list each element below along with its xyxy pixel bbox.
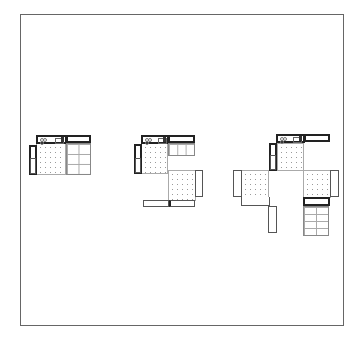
appliance-icon: [163, 137, 166, 142]
bedroom-left: [241, 170, 269, 198]
storage-grid-right: [303, 206, 329, 236]
stove-icon: [145, 138, 151, 143]
stove-icon: [280, 137, 286, 142]
bath-unit: [30, 158, 36, 174]
tab-left: [268, 206, 277, 233]
storage-grid: [66, 143, 91, 175]
storage-grid: [168, 143, 195, 156]
bath-unit: [135, 158, 141, 173]
bedroom-right: [303, 170, 331, 198]
living-room: [277, 143, 304, 171]
storage-counter: [168, 135, 195, 143]
closet-left: [233, 170, 242, 197]
bedroom-closet: [195, 170, 203, 197]
stove-icon: [40, 138, 46, 143]
bottom-counter-right: [169, 200, 195, 207]
living-room: [141, 143, 168, 174]
bedroom: [168, 170, 196, 201]
kitchen-counter: [36, 135, 67, 144]
wall-left: [241, 197, 270, 206]
bath-unit: [270, 155, 276, 170]
storage-counter: [304, 134, 330, 142]
appliance-icon: [299, 136, 302, 141]
kitchen-counter: [141, 135, 169, 144]
appliance-icon: [61, 137, 64, 142]
storage-counter: [66, 135, 91, 143]
counter-right: [303, 197, 330, 206]
living-room: [36, 143, 66, 175]
closet-right: [330, 170, 339, 197]
kitchen-counter: [276, 134, 305, 143]
bottom-counter-left: [143, 200, 169, 207]
